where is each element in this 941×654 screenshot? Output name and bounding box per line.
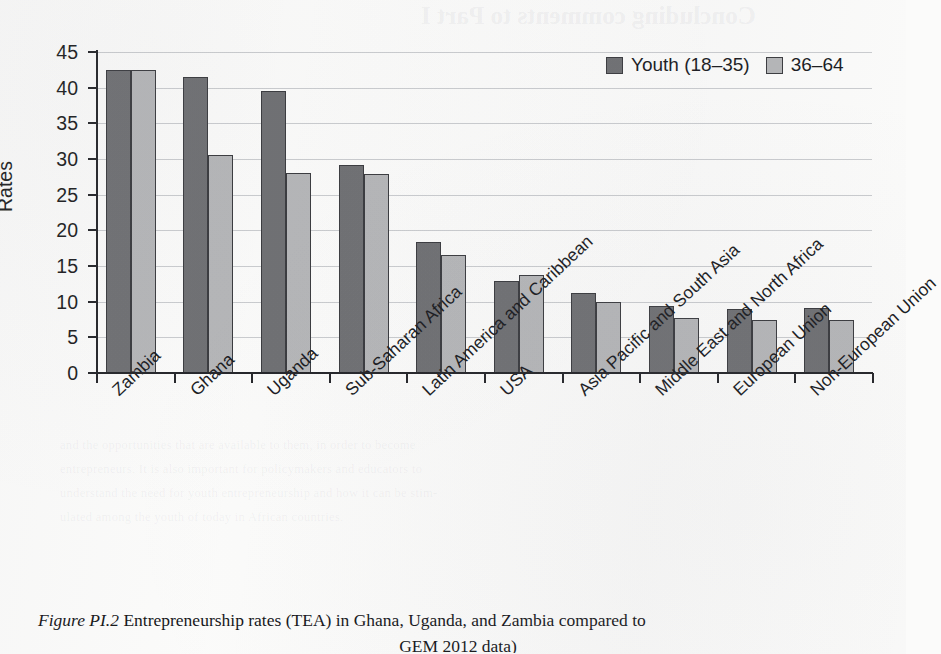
y-tick-label: 35 <box>56 112 78 135</box>
x-tick-mark <box>484 373 486 383</box>
legend-label: 36–64 <box>791 54 844 76</box>
bar-chart-figure: 051015202530354045 Rates ZambiaGhanaUgan… <box>0 0 906 594</box>
legend-item: 36–64 <box>766 54 844 76</box>
x-tick-mark <box>251 373 253 383</box>
x-tick-mark <box>96 373 98 383</box>
legend-swatch-dark <box>606 57 623 74</box>
gridline <box>96 52 872 53</box>
figure-number: Figure PI.2 <box>38 610 119 630</box>
x-tick-mark <box>562 373 564 383</box>
y-tick-mark <box>88 122 97 124</box>
y-tick-mark <box>88 265 97 267</box>
y-tick-label: 10 <box>56 290 78 313</box>
y-tick-mark <box>88 336 97 338</box>
y-tick-mark <box>88 301 97 303</box>
bar <box>183 77 208 373</box>
y-axis-tick-labels: 051015202530354045 <box>0 0 86 594</box>
y-tick-label: 25 <box>56 183 78 206</box>
y-tick-label: 30 <box>56 148 78 171</box>
y-tick-mark <box>88 158 97 160</box>
y-tick-mark <box>88 87 97 89</box>
figure-caption-line2: GEM 2012 data) <box>38 636 878 653</box>
x-tick-mark <box>329 373 331 383</box>
bar <box>571 293 596 373</box>
bar <box>106 70 131 373</box>
x-tick-mark <box>794 373 796 383</box>
y-tick-label: 40 <box>56 76 78 99</box>
bar <box>261 91 286 373</box>
figure-caption: Figure PI.2 Entrepreneurship rates (TEA)… <box>38 608 878 633</box>
y-tick-label: 0 <box>67 362 78 385</box>
y-tick-mark <box>88 51 97 53</box>
gridline <box>96 88 872 89</box>
figure-caption-text: Entrepreneurship rates (TEA) in Ghana, U… <box>123 610 645 630</box>
y-tick-mark <box>88 194 97 196</box>
bar <box>208 155 233 373</box>
y-tick-mark <box>88 229 97 231</box>
x-tick-mark <box>174 373 176 383</box>
bar <box>339 165 364 373</box>
legend-label: Youth (18–35) <box>631 54 750 76</box>
x-tick-mark <box>639 373 641 383</box>
y-axis-line <box>96 50 98 375</box>
x-tick-mark <box>406 373 408 383</box>
x-tick-mark <box>717 373 719 383</box>
y-axis-title: Rates <box>0 161 17 212</box>
y-tick-mark <box>88 372 97 374</box>
gridline <box>96 123 872 124</box>
y-tick-label: 15 <box>56 255 78 278</box>
bar <box>131 70 156 373</box>
legend-item: Youth (18–35) <box>606 54 750 76</box>
legend-swatch-light <box>766 57 783 74</box>
y-tick-label: 20 <box>56 219 78 242</box>
chart-legend: Youth (18–35)36–64 <box>606 54 844 76</box>
y-tick-label: 5 <box>67 326 78 349</box>
x-tick-mark <box>872 373 874 383</box>
y-tick-label: 45 <box>56 41 78 64</box>
